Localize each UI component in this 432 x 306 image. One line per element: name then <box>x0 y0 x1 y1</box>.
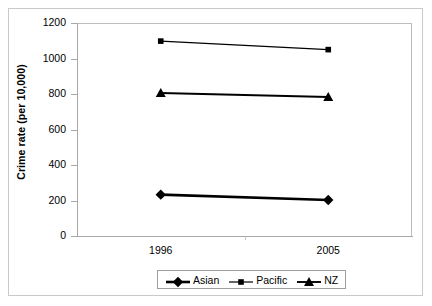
y-tick-600 <box>71 130 77 131</box>
legend-swatch-pacific-icon <box>228 274 254 286</box>
y-tick-label-600: 600 <box>22 124 66 135</box>
legend-label-asian: Asian <box>193 274 219 286</box>
legend-label-nz: NZ <box>324 274 338 286</box>
y-tick-0 <box>71 236 77 237</box>
legend-swatch-nz-icon <box>296 274 322 286</box>
legend-swatch-asian-icon <box>165 274 191 286</box>
y-tick-label-0: 0 <box>22 230 66 241</box>
y-tick-label-800: 800 <box>22 88 66 99</box>
plot-area <box>77 23 412 236</box>
legend-entry-nz[interactable]: NZ <box>296 274 338 286</box>
legend-label-pacific: Pacific <box>256 274 287 286</box>
y-tick-label-1200: 1200 <box>22 17 66 28</box>
x-tick-boundary-1 <box>245 236 246 240</box>
x-tick-label-2005: 2005 <box>298 244 358 256</box>
legend-entry-pacific[interactable]: Pacific <box>228 274 287 286</box>
y-tick-label-400: 400 <box>22 159 66 170</box>
y-tick-1000 <box>71 59 77 60</box>
y-tick-400 <box>71 165 77 166</box>
y-tick-1200 <box>71 23 77 24</box>
y-tick-label-200: 200 <box>22 195 66 206</box>
x-tick-label-1996: 1996 <box>131 244 191 256</box>
chart-legend: AsianPacificNZ <box>157 270 346 289</box>
legend-entry-asian[interactable]: Asian <box>165 274 219 286</box>
y-tick-label-1000: 1000 <box>22 53 66 64</box>
y-tick-800 <box>71 94 77 95</box>
y-axis-line <box>77 23 78 237</box>
chart-figure: Crime rate (per 10,000) 0200400600800100… <box>0 0 432 306</box>
y-tick-200 <box>71 201 77 202</box>
